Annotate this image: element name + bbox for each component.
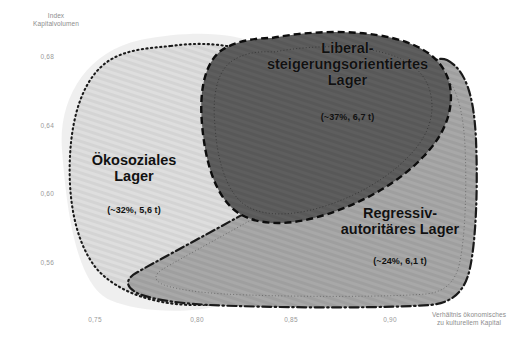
y-tick-2: 0,60 xyxy=(28,190,54,197)
cluster-label-oekosoziales: Ökosoziales Lager xyxy=(44,152,224,184)
x-tick-2: 0,85 xyxy=(276,316,306,323)
y-tick-0: 0,68 xyxy=(28,53,54,60)
x-tick-3: 0,90 xyxy=(375,316,405,323)
x-axis-label: Verhältnis ökonomisches zu kulturellem K… xyxy=(428,311,510,327)
cluster-value-regressiv: (~24%, 6,1 t) xyxy=(300,256,500,266)
cluster-value-oekosoziales: (~32%, 5,6 t) xyxy=(44,205,224,215)
x-tick-0: 0,75 xyxy=(80,316,110,323)
y-axis-label: Index Kapitalvolumen xyxy=(26,12,86,28)
y-tick-1: 0,64 xyxy=(28,122,54,129)
x-tick-1: 0,80 xyxy=(182,316,212,323)
cluster-scatter-chart: Index Kapitalvolumen Verhältnis ökonomis… xyxy=(0,0,512,352)
cluster-label-liberal: Liberal- steigerungsorientiertes Lager xyxy=(225,40,470,89)
cluster-label-regressiv: Regressiv- autoritäres Lager xyxy=(300,205,500,237)
cluster-value-liberal: (~37%, 6,7 t) xyxy=(225,112,470,122)
y-tick-3: 0,56 xyxy=(28,259,54,266)
